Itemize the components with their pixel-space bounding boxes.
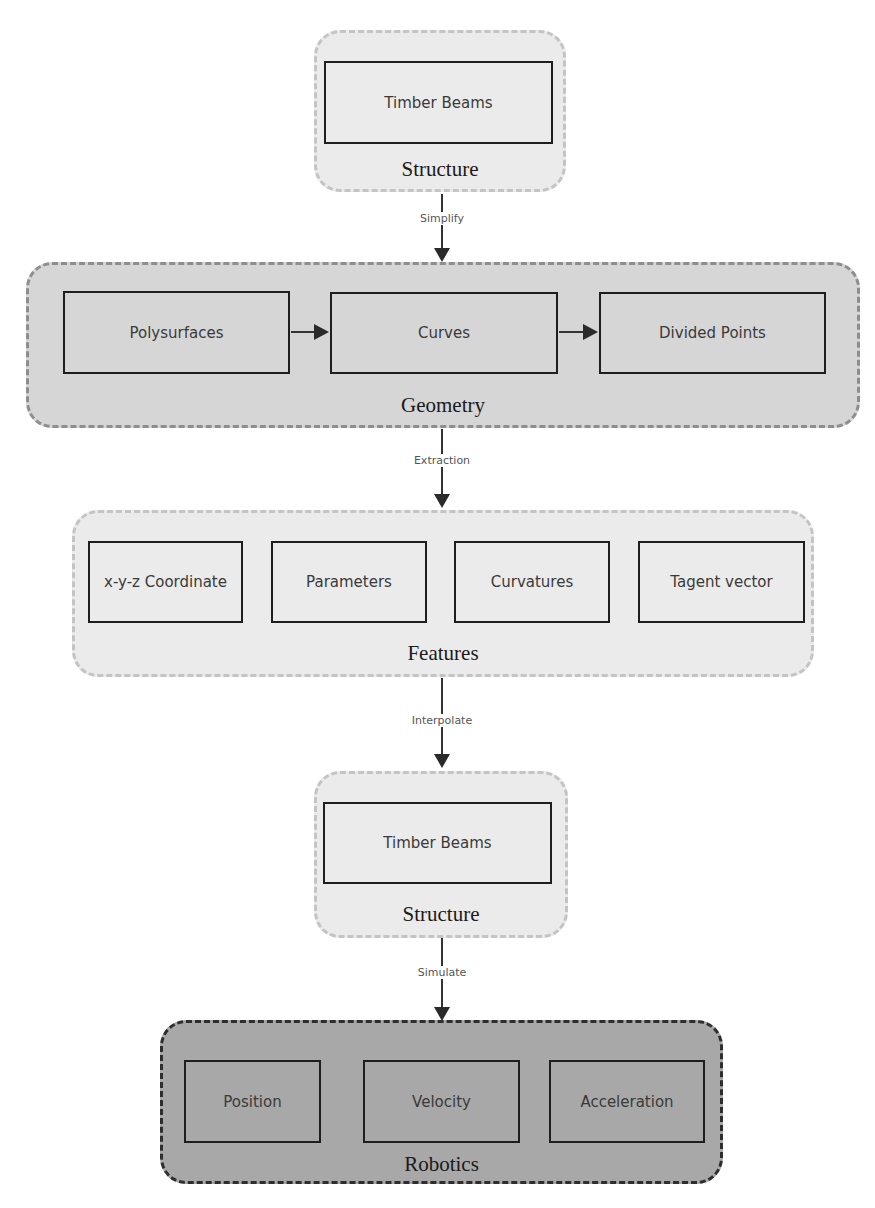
arrow-down-icon: [434, 248, 450, 262]
node-polysurfaces: Polysurfaces: [63, 291, 290, 374]
node-timber-beams-top: Timber Beams: [324, 61, 553, 144]
node-curvatures: Curvatures: [454, 541, 610, 623]
arrow-down-icon: [434, 754, 450, 768]
node-timber-beams-bottom: Timber Beams: [323, 802, 552, 884]
group-label-structure: Structure: [317, 157, 563, 182]
node-curves: Curves: [330, 292, 558, 374]
node-position: Position: [184, 1060, 321, 1143]
arrow-right-icon: [314, 324, 329, 340]
node-xyz-coordinate: x-y-z Coordinate: [88, 541, 243, 623]
arrow-down-icon: [434, 494, 450, 508]
arrow-down-icon: [434, 1007, 450, 1021]
group-label-geometry: Geometry: [29, 393, 857, 418]
group-label-features: Features: [75, 641, 811, 666]
edge-label-extraction: Extraction: [412, 454, 472, 467]
edge-label-simplify: Simplify: [418, 212, 466, 225]
node-parameters: Parameters: [271, 541, 427, 623]
node-acceleration: Acceleration: [549, 1060, 705, 1143]
edge-label-interpolate: Interpolate: [410, 714, 474, 727]
group-label-robotics: Robotics: [163, 1152, 720, 1177]
node-velocity: Velocity: [363, 1060, 520, 1143]
node-divided-points: Divided Points: [599, 292, 826, 374]
arrow-right-icon: [583, 324, 598, 340]
group-label-structure: Structure: [317, 902, 565, 927]
edge-curves-divided-line: [559, 331, 585, 333]
edge-label-simulate: Simulate: [416, 966, 469, 979]
node-tagent-vector: Tagent vector: [638, 541, 805, 623]
